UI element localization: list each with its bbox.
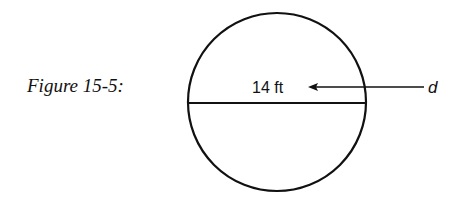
diameter-label: 14 ft [252,79,284,96]
pointer-label: d [428,78,438,97]
circle-diagram: 14 ft d [0,0,460,198]
